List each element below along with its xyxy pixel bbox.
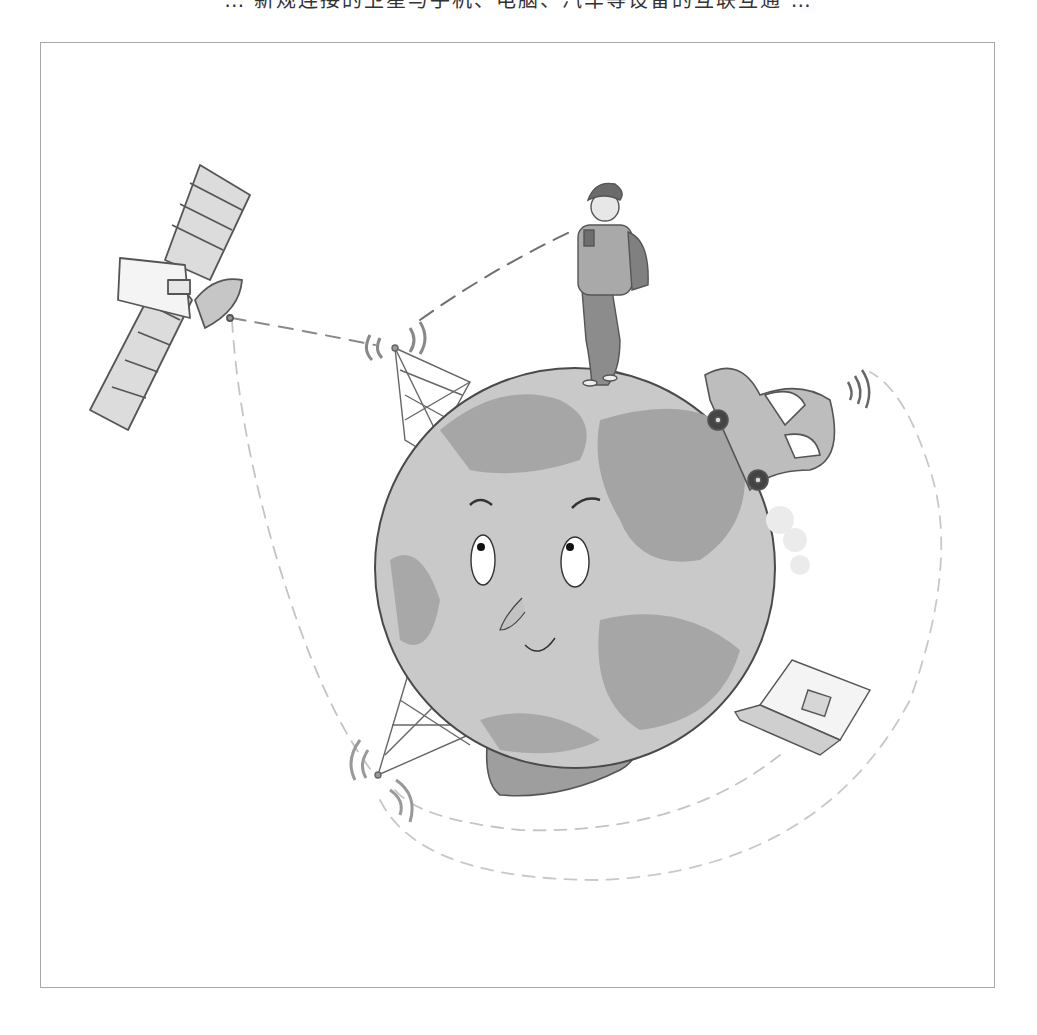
illustration [0,0,1037,1035]
person-with-phone-icon [578,183,648,386]
laptop-icon [735,660,870,755]
satellite-icon [90,165,250,430]
